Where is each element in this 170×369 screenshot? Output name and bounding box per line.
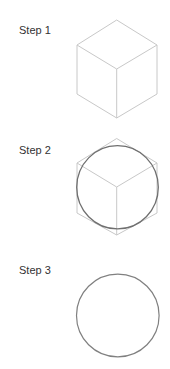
step-2-circle	[77, 146, 159, 229]
step-2-cube	[77, 139, 157, 236]
cube-inner-edges	[77, 45, 157, 69]
diagram-canvas	[0, 0, 170, 369]
step-3-circle	[77, 274, 160, 357]
cube-inner-edges	[77, 163, 157, 187]
step-1-cube	[77, 20, 157, 118]
